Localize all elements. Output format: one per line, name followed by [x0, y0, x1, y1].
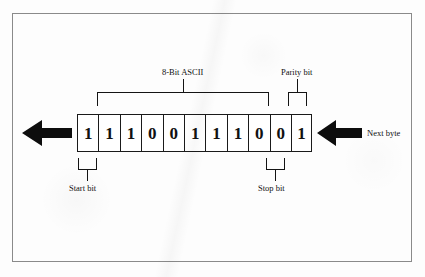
bit-cell: 1: [77, 114, 98, 152]
bit-cell: 1: [184, 114, 205, 152]
bit-cell: 1: [120, 114, 141, 152]
bit-cell: 1: [205, 114, 226, 152]
bit-cell: 1: [98, 114, 119, 152]
start-bit-label: Start bit: [69, 183, 96, 193]
bit-cell: 0: [270, 114, 291, 152]
arrow-left-icon: [22, 119, 72, 147]
stop-bit-bracket-stem: [275, 170, 277, 181]
bit-cell: 1: [291, 114, 312, 152]
parity-bracket: [288, 92, 307, 106]
next-byte-label: Next byte: [367, 128, 400, 138]
serial-frame-diagram: 8-Bit ASCII Parity bit 1 1 1 0 0 1 1 1 0…: [0, 0, 425, 277]
start-bit-bracket: [78, 158, 97, 170]
parity-label: Parity bit: [281, 67, 312, 77]
bit-cell: 0: [141, 114, 162, 152]
ascii-label: 8-Bit ASCII: [162, 67, 203, 77]
ascii-bracket-stem: [183, 79, 185, 92]
bit-frame-row: 1 1 1 0 0 1 1 1 0 0 1: [77, 114, 312, 152]
bit-cell: 1: [227, 114, 248, 152]
ascii-bracket: [97, 92, 269, 106]
parity-bracket-stem: [297, 79, 299, 92]
arrow-left-icon: [317, 119, 362, 147]
bit-cell: 0: [248, 114, 269, 152]
stop-bit-label: Stop bit: [258, 183, 285, 193]
start-bit-bracket-stem: [87, 170, 89, 181]
bit-cell: 0: [163, 114, 184, 152]
stop-bit-bracket: [266, 158, 285, 170]
